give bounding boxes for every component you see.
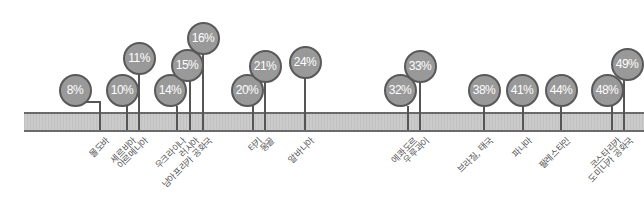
stem-line <box>252 106 254 131</box>
value-bubble: 16% <box>187 22 220 55</box>
value-bubble: 33% <box>404 50 437 83</box>
stem-line <box>304 78 306 131</box>
stem-line <box>483 106 485 131</box>
value-bubble: 8% <box>59 74 92 107</box>
stem-line <box>264 82 266 131</box>
value-bubble: 21% <box>249 50 282 83</box>
value-bubble: 11% <box>123 42 156 75</box>
value-bubble: 41% <box>506 74 539 107</box>
value-bubble: 38% <box>468 74 501 107</box>
stem-line <box>176 106 178 131</box>
value-bubble: 24% <box>289 46 322 79</box>
stem-line <box>189 81 191 131</box>
category-label: 알바니아 <box>285 134 317 166</box>
timeline-bar <box>24 112 644 132</box>
stem-line <box>126 106 128 131</box>
category-label: 브라질, 태국 <box>454 134 496 176</box>
category-label: 파나마 <box>509 134 535 160</box>
stem-line <box>611 106 613 131</box>
category-label: 팔레스타인 <box>536 134 573 171</box>
stem-line <box>522 106 524 131</box>
stem-line <box>407 106 409 131</box>
value-bubble: 44% <box>545 74 578 107</box>
stem-line <box>560 106 562 131</box>
stem-line <box>138 74 140 131</box>
value-bubble: 49% <box>611 48 644 81</box>
value-bubble: 10% <box>106 74 139 107</box>
stem-line <box>419 82 421 131</box>
stem-line <box>99 101 101 130</box>
